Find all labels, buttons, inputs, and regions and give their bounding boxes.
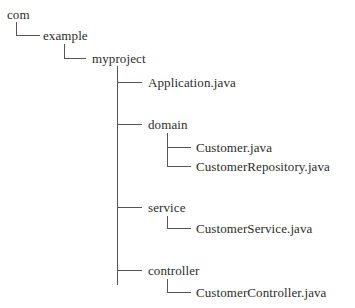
tree-connector-lines <box>0 0 355 308</box>
tree-node-customer-repository-java: CustomerRepository.java <box>196 159 330 175</box>
tree-node-example: example <box>43 28 88 44</box>
tree-node-application-java: Application.java <box>148 75 236 91</box>
tree-node-customer-service-java: CustomerService.java <box>196 221 312 237</box>
tree-node-com: com <box>7 7 30 23</box>
tree-node-myproject: myproject <box>92 51 146 67</box>
tree-node-domain: domain <box>148 117 188 133</box>
tree-node-service: service <box>148 200 186 216</box>
tree-node-controller: controller <box>148 263 200 279</box>
tree-node-customer-java: Customer.java <box>196 140 272 156</box>
tree-node-customer-controller-java: CustomerController.java <box>196 285 326 301</box>
